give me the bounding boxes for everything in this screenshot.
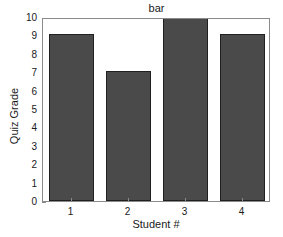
y-tick-label: 0	[31, 197, 37, 207]
bar-3	[163, 18, 209, 201]
y-tick-label: 5	[31, 105, 37, 115]
x-tick-mark	[242, 198, 243, 202]
y-tick-label: 2	[31, 160, 37, 170]
y-tick-label: 9	[31, 31, 37, 41]
bar-4	[220, 34, 266, 201]
y-tick-label: 6	[31, 87, 37, 97]
y-tick-label: 7	[31, 68, 37, 78]
x-tick-label: 1	[68, 207, 74, 217]
y-tick-label: 10	[26, 13, 37, 23]
x-tick-mark	[185, 198, 186, 202]
y-tick-label: 1	[31, 179, 37, 189]
plot-area	[42, 18, 270, 202]
chart-figure: bar Quiz Grade 012345678910 1234 Student…	[0, 0, 283, 237]
bar-2	[106, 71, 152, 201]
x-tick-mark	[71, 198, 72, 202]
bar-series	[43, 19, 269, 201]
y-tick-label: 4	[31, 123, 37, 133]
y-tick-label: 8	[31, 50, 37, 60]
y-axis-ticks: 012345678910	[0, 18, 42, 202]
bar-1	[49, 34, 95, 201]
x-tick-label: 3	[182, 207, 188, 217]
y-tick-label: 3	[31, 142, 37, 152]
x-tick-label: 4	[239, 207, 245, 217]
x-axis-title: Student #	[42, 218, 270, 231]
chart-title: bar	[42, 1, 271, 15]
x-tick-mark	[128, 198, 129, 202]
x-tick-label: 2	[125, 207, 131, 217]
